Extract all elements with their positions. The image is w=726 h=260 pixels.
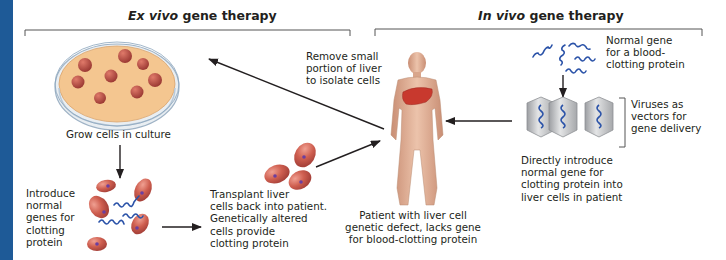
dna-strand-icon	[560, 45, 565, 65]
liver-cell-icon	[87, 237, 107, 251]
transplant-label: Transplant liver cells back into patient…	[210, 188, 327, 249]
dna-strand-icon	[566, 69, 586, 73]
arrow-transplant-to-patient	[316, 141, 380, 167]
liver-cell-icon	[128, 210, 153, 237]
virus-capsid-group	[527, 97, 613, 137]
remove-liver-label: Remove small portion of liver to isolate…	[306, 50, 382, 87]
viruses-label: Viruses as vectors for gene delivery	[631, 98, 701, 135]
dna-strand-icon	[575, 57, 595, 61]
introduce-genes-label: Introduce normal genes for clotting prot…	[26, 187, 75, 248]
liver-cell-icon	[262, 161, 293, 187]
liver-cell-icon	[290, 139, 320, 172]
patient-label: Patient with liver cell genetic defect, …	[338, 209, 488, 246]
liver-cell-icon	[85, 192, 114, 222]
grow-cells-label: Grow cells in culture	[66, 128, 171, 140]
transplant-cells-group	[262, 139, 320, 194]
liver-cell-icon	[95, 178, 117, 193]
dna-strand-icon	[533, 45, 552, 57]
virus-capsid-icon	[585, 97, 613, 137]
human-body-icon	[391, 52, 443, 205]
virus-bracket	[619, 98, 625, 147]
cells-with-genes-group	[85, 176, 156, 251]
dna-strand-icon	[569, 43, 590, 49]
normal-gene-strands	[533, 43, 595, 73]
normal-gene-label: Normal gene for a blood- clotting protei…	[606, 34, 685, 71]
dna-strand-icon	[99, 220, 124, 224]
petri-dish-icon	[55, 42, 179, 130]
directly-introduce-label: Directly introduce normal gene for clott…	[521, 154, 623, 203]
ex-vivo-bracket	[25, 30, 350, 36]
liver-cell-icon	[131, 176, 156, 205]
virus-capsid-icon	[549, 97, 577, 137]
